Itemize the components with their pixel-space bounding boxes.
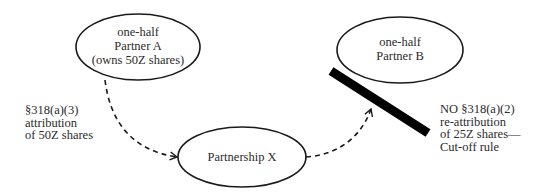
partner-a-line-3: (owns 50Z shares) (92, 53, 184, 67)
attribution-diagram: one-half Partner A (owns 50Z shares) one… (0, 0, 553, 196)
partner-a-line-2: Partner A (114, 39, 162, 53)
attribution-arrow-a-to-x (105, 80, 177, 157)
node-partner-b: one-half Partner B (337, 17, 463, 83)
label-cutoff-right: NO §318(a)(2) re-attribution of 25Z shar… (440, 103, 521, 153)
partnership-x-label: Partnership X (207, 150, 276, 164)
partner-b-line-2: Partner B (376, 49, 424, 63)
blocked-arrow-x-to-b (306, 109, 371, 157)
partner-a-line-1: one-half (117, 25, 159, 39)
left-label-line-1: §318(a)(3) (25, 104, 93, 117)
partner-b-line-1: one-half (379, 35, 421, 49)
right-label-line-3: of 25Z shares— (440, 128, 521, 141)
left-label-line-3: of 50Z shares (25, 129, 93, 142)
diagram-graphics: one-half Partner A (owns 50Z shares) one… (0, 0, 553, 196)
node-partner-a: one-half Partner A (owns 50Z shares) (76, 14, 200, 80)
right-label-line-1: NO §318(a)(2) (440, 103, 521, 116)
label-attribution-left: §318(a)(3) attribution of 50Z shares (25, 104, 93, 142)
node-partnership-x: Partnership X (178, 127, 306, 187)
cutoff-blocker-bar (331, 71, 428, 133)
right-label-line-4: Cut-off rule (440, 141, 521, 154)
